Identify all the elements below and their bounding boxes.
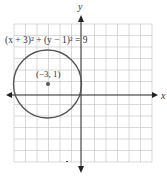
stray-mark bbox=[66, 161, 68, 162]
center-point bbox=[46, 82, 50, 86]
y-axis-label: y bbox=[77, 1, 83, 12]
coordinate-plane-diagram: y x (x + 3)² + (y − 1)² = 9 (−3, 1) bbox=[0, 0, 167, 177]
y-axis-down-arrow-icon bbox=[78, 166, 84, 173]
y-axis-up-arrow-icon bbox=[78, 15, 84, 22]
x-axis-left-arrow-icon bbox=[6, 92, 12, 98]
equation-label: (x + 3)² + (y − 1)² = 9 bbox=[5, 35, 88, 46]
x-axis-right-arrow-icon bbox=[152, 92, 158, 98]
center-label: (−3, 1) bbox=[36, 69, 61, 79]
x-axis-label: x bbox=[160, 90, 166, 101]
